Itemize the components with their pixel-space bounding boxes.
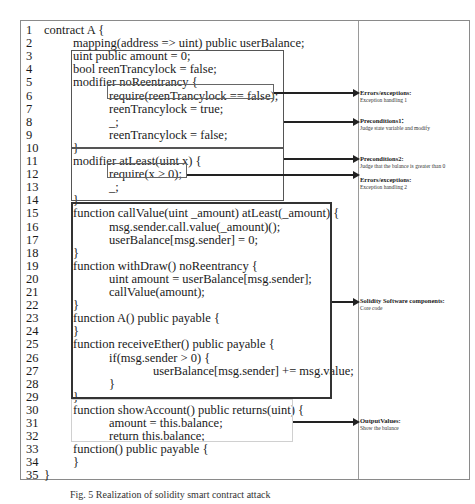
- arrow-errors-2: [187, 174, 354, 176]
- annotation-preconditions-1: Preconditions1： Judge state variable and…: [360, 117, 470, 132]
- arrow-output-values: [293, 421, 354, 423]
- annotation-title: Errors/exceptions:: [360, 176, 470, 184]
- line-number: 13: [26, 181, 46, 194]
- annotation-output-values: OutputValues: Show the balance: [360, 417, 470, 432]
- line-number: 19: [26, 260, 46, 273]
- code-line: mapping(address => uint) public userBala…: [73, 37, 304, 50]
- line-number: 17: [26, 234, 46, 247]
- code-line: contract A {: [44, 24, 104, 37]
- annotation-software-components: Solidity Software components: Core code: [360, 297, 470, 312]
- line-number: 16: [26, 221, 46, 234]
- line-number: 24: [26, 325, 46, 338]
- line-number: 11: [26, 155, 46, 168]
- annotation-preconditions-2: Preconditions2: Judge that the balance i…: [360, 155, 470, 170]
- annotation-desc: Judge state variable and modify: [360, 125, 470, 132]
- line-number: 1: [26, 24, 46, 37]
- line-number: 15: [26, 207, 46, 220]
- line-number: 12: [26, 168, 46, 181]
- line-number: 5: [26, 76, 46, 89]
- arrow-preconditions-2: [284, 158, 354, 160]
- annotation-title: Preconditions2:: [360, 155, 470, 163]
- code-line: }: [73, 456, 79, 469]
- annotation-errors-1: Errors/exceptions: Exception handling 1: [360, 89, 470, 104]
- line-number: 10: [26, 142, 46, 155]
- arrow-preconditions-1: [284, 121, 354, 123]
- line-number: 33: [26, 443, 46, 456]
- annotation-desc: Exception handling 2: [360, 184, 470, 191]
- line-number: 23: [26, 312, 46, 325]
- line-number: 18: [26, 247, 46, 260]
- box-show-account: [71, 399, 293, 442]
- figure-caption: Fig. 5 Realization of solidity smart con…: [70, 489, 410, 501]
- line-number: 21: [26, 286, 46, 299]
- box-require-positive: [107, 163, 187, 178]
- line-number: 22: [26, 299, 46, 312]
- line-number: 7: [26, 103, 46, 116]
- line-number: 3: [26, 50, 46, 63]
- annotation-desc: Core code: [360, 305, 470, 312]
- code-figure: 1contract A {2mapping(address => uint) p…: [20, 20, 470, 480]
- box-require-lock: [107, 84, 274, 99]
- line-number: 34: [26, 456, 46, 469]
- line-number: 8: [26, 116, 46, 129]
- code-line: }: [44, 469, 50, 482]
- line-number: 25: [26, 338, 46, 351]
- annotation-desc: Exception handling 1: [360, 97, 470, 104]
- annotation-desc: Show the balance: [360, 425, 470, 432]
- line-number: 20: [26, 273, 46, 286]
- box-state-and-reentrancy-modifier: [71, 50, 284, 148]
- line-number: 2: [26, 37, 46, 50]
- line-number: 4: [26, 63, 46, 76]
- line-number: 14: [26, 194, 46, 207]
- box-core-functions: [71, 202, 332, 399]
- annotation-title: Solidity Software components:: [360, 297, 470, 305]
- annotation-desc: Judge that the balance is greater than 0: [360, 163, 470, 170]
- arrow-errors-1: [274, 92, 354, 94]
- annotation-errors-2: Errors/exceptions: Exception handling 2: [360, 176, 470, 191]
- arrow-software-components: [332, 301, 354, 303]
- line-number: 32: [26, 430, 46, 443]
- annotation-title: Errors/exceptions:: [360, 89, 470, 97]
- line-number: 9: [26, 129, 46, 142]
- annotation-title: OutputValues:: [360, 417, 470, 425]
- code-line: function() public payable {: [73, 443, 208, 456]
- line-number: 30: [26, 404, 46, 417]
- line-number: 6: [26, 90, 46, 103]
- annotation-title: Preconditions1：: [360, 117, 470, 125]
- line-number: 29: [26, 391, 46, 404]
- line-number: 35: [26, 469, 46, 482]
- line-number: 31: [26, 417, 46, 430]
- line-number: 26: [26, 352, 46, 365]
- line-number: 28: [26, 378, 46, 391]
- line-number: 27: [26, 365, 46, 378]
